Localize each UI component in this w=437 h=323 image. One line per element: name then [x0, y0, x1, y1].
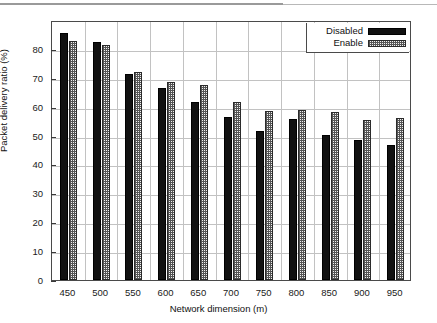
bar-enable-450: [69, 41, 77, 280]
y-tick-label: 10: [32, 247, 43, 257]
y-tick-mark: [51, 223, 56, 224]
y-tick-mark: [51, 281, 56, 282]
gridline-vertical: [216, 22, 217, 280]
y-axis-title: Packet delivery ratio (%): [0, 49, 9, 152]
bar-enable-850: [331, 112, 339, 280]
gridline-vertical: [314, 22, 315, 280]
y-tick-mark: [51, 165, 56, 166]
x-tick-label: 850: [321, 288, 337, 298]
legend-item-enable: Enable: [310, 37, 406, 49]
y-tick-label: 80: [32, 45, 43, 55]
y-tick-mark: [51, 79, 56, 80]
gridline-vertical: [117, 22, 118, 280]
x-axis-title: Network dimension (m): [0, 303, 437, 314]
solid-black-swatch-icon: [368, 28, 406, 35]
legend-label-disabled: Disabled: [326, 26, 363, 36]
x-tick-label: 950: [387, 288, 403, 298]
bar-enable-950: [396, 118, 404, 280]
bar-enable-750: [265, 111, 273, 280]
bar-enable-550: [134, 72, 142, 280]
bar-disabled-800: [289, 119, 297, 280]
bar-disabled-550: [125, 74, 133, 280]
bar-enable-900: [363, 120, 371, 280]
y-tick-label: 60: [32, 103, 43, 113]
gridline-vertical: [281, 22, 282, 280]
y-tick-mark: [51, 252, 56, 253]
x-tick-label: 700: [223, 288, 239, 298]
dotted-hatch-swatch-icon: [368, 40, 406, 47]
y-tick-label: 70: [32, 74, 43, 84]
y-tick-mark: [51, 194, 56, 195]
plot-inner: [52, 22, 410, 280]
y-tick-mark: [51, 137, 56, 138]
bar-disabled-500: [93, 42, 101, 280]
bar-disabled-950: [387, 145, 395, 280]
x-tick-label: 650: [190, 288, 206, 298]
bar-enable-600: [167, 82, 175, 280]
bar-enable-800: [298, 110, 306, 280]
x-tick-label: 450: [59, 288, 75, 298]
bar-enable-650: [200, 85, 208, 280]
bar-disabled-750: [256, 131, 264, 280]
x-tick-label: 500: [92, 288, 108, 298]
x-tick-label: 600: [158, 288, 174, 298]
chart-figure: 01020304050607080 4505005506006507007508…: [0, 0, 437, 323]
y-tick-label: 50: [32, 132, 43, 142]
y-tick-mark: [51, 108, 56, 109]
x-tick-label: 750: [256, 288, 272, 298]
y-tick-label: 0: [38, 276, 43, 286]
gridline-vertical: [347, 22, 348, 280]
bar-disabled-850: [322, 135, 330, 280]
bar-disabled-450: [60, 33, 68, 280]
bar-disabled-900: [354, 140, 362, 280]
gridline-vertical: [379, 22, 380, 280]
y-tick-mark: [51, 50, 56, 51]
y-tick-label: 40: [32, 161, 43, 171]
bar-disabled-650: [191, 102, 199, 280]
plot-area: [51, 21, 411, 281]
x-tick-label: 550: [125, 288, 141, 298]
y-tick-label: 30: [32, 190, 43, 200]
x-tick-label: 800: [289, 288, 305, 298]
bar-disabled-600: [158, 88, 166, 280]
bar-disabled-700: [224, 117, 232, 280]
gridline-vertical: [150, 22, 151, 280]
bar-enable-700: [233, 102, 241, 280]
bar-enable-500: [102, 45, 110, 280]
gridline-vertical: [85, 22, 86, 280]
gridline-vertical: [183, 22, 184, 280]
scan-artifact-line-secondary: [283, 4, 437, 5]
legend-label-enable: Enable: [333, 38, 363, 48]
chart-legend: Disabled Enable: [306, 23, 409, 53]
legend-item-disabled: Disabled: [310, 25, 406, 37]
scan-artifact-line: [0, 3, 283, 5]
x-tick-label: 900: [354, 288, 370, 298]
y-tick-label: 20: [32, 218, 43, 228]
gridline-vertical: [248, 22, 249, 280]
